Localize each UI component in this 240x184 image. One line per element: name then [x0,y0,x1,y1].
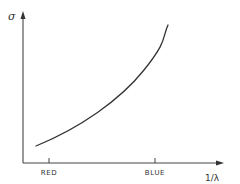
y-axis-arrow-icon [21,11,26,19]
chart: σ 1/λ RED BLUE [0,0,240,184]
tick-label-red: RED [41,169,57,177]
y-axis-label: σ [8,10,16,23]
x-axis-arrow-icon [216,161,224,166]
sigma-curve [36,25,168,146]
x-axis-label: 1/λ [205,173,220,183]
tick-label-blue: BLUE [145,169,165,177]
